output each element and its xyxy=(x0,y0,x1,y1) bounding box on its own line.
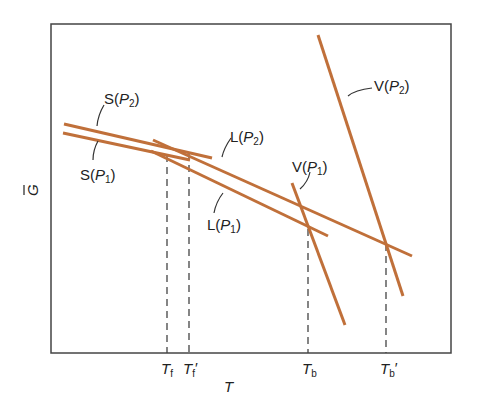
line-v-p2 xyxy=(318,35,403,296)
leader-s-p2 xyxy=(97,105,104,126)
label-v-p2: V(P2) xyxy=(374,77,410,96)
label-l-p2: L(P2) xyxy=(230,128,264,147)
label-v-p1: V(P1) xyxy=(292,158,328,177)
leader-v-p2 xyxy=(348,88,372,96)
label-s-p1: S(P1) xyxy=(80,166,116,185)
tick-label-tf: Tf xyxy=(161,360,173,379)
leader-l-p1 xyxy=(214,193,223,213)
label-s-p2: S(P2) xyxy=(104,90,140,109)
leader-s-p1 xyxy=(93,141,98,160)
line-l-p2 xyxy=(153,140,412,256)
tick-label-tb-prime: Tb′ xyxy=(380,359,398,379)
x-axis-label: T xyxy=(224,378,235,395)
label-l-p1: L(P1) xyxy=(207,216,241,235)
tick-label-tb: Tb xyxy=(302,360,317,379)
dashed-guides xyxy=(167,153,386,353)
tick-label-tf-prime: Tf′ xyxy=(183,359,198,379)
gibbs-energy-diagram: S(P2) S(P1) L(P2) L(P1) V(P1) V(P2) Tf T… xyxy=(0,0,477,410)
y-axis-label-group: G xyxy=(24,184,41,196)
y-axis-label: G xyxy=(24,184,41,196)
plot-frame xyxy=(51,24,451,353)
line-v-p1 xyxy=(292,183,345,325)
line-s-p2 xyxy=(64,124,212,158)
